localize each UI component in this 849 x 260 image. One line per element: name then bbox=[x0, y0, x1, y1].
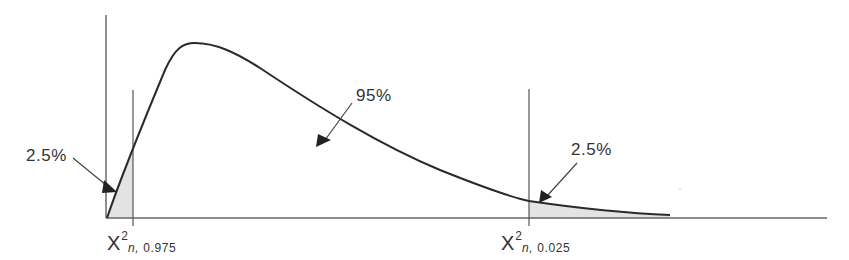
left-tail-percent-label: 2.5% bbox=[26, 146, 67, 166]
center-area-arrow bbox=[325, 103, 352, 140]
right-critical-symbol: X bbox=[501, 232, 514, 254]
center-area-arrowhead bbox=[316, 134, 331, 147]
left-critical-value-label: X2n, 0.975 bbox=[107, 232, 176, 255]
right-tail-percent-label: 2.5% bbox=[571, 140, 612, 160]
right-tail-arrow bbox=[547, 163, 577, 196]
right-critical-subscript-val: 0.025 bbox=[533, 241, 570, 255]
center-area-percent-label: 95% bbox=[356, 86, 392, 106]
left-critical-subscript-var: n, bbox=[128, 241, 139, 255]
right-critical-value-label: X2n, 0.025 bbox=[501, 232, 570, 255]
chi-square-density-curve bbox=[107, 43, 670, 218]
left-tail-arrow bbox=[73, 158, 106, 185]
left-critical-symbol: X bbox=[107, 232, 120, 254]
right-critical-subscript-var: n, bbox=[522, 241, 533, 255]
chi-square-diagram bbox=[0, 0, 849, 260]
left-critical-subscript-val: 0.975 bbox=[139, 241, 176, 255]
left-tail-arrowhead bbox=[102, 180, 117, 193]
